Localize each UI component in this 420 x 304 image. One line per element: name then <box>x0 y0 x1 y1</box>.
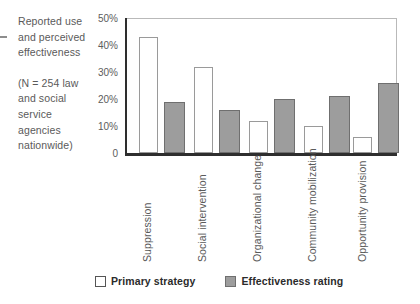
caption-paragraph-2: (N = 254 law and social service agencies… <box>18 76 96 154</box>
bar-effect-4 <box>378 83 399 153</box>
y-axis-line <box>125 18 127 156</box>
bar-effect-0 <box>164 102 185 153</box>
x-axis-category-labels: Suppression Social intervention Organiza… <box>125 160 397 265</box>
margin-rule <box>0 36 7 38</box>
y-tick-20: 20% <box>88 95 118 105</box>
legend-item-primary-strategy: Primary strategy <box>95 275 195 287</box>
legend-swatch-primary-strategy <box>95 276 106 287</box>
bar-primary-0 <box>139 37 158 153</box>
bar-group-community-mobilization <box>304 18 356 153</box>
y-tick-50: 50% <box>88 14 118 24</box>
bar-group-opportunity-provision <box>353 18 405 153</box>
bar-group-suppression <box>139 18 191 153</box>
bar-effect-1 <box>219 110 240 153</box>
y-tick-10: 10% <box>88 122 118 132</box>
bar-primary-1 <box>194 67 213 153</box>
bar-chart-plot-area <box>125 18 397 156</box>
chart-legend: Primary strategy Effectiveness rating <box>95 274 343 288</box>
bar-primary-4 <box>353 137 372 153</box>
x-label-suppression: Suppression <box>141 203 153 262</box>
bar-effect-3 <box>329 96 350 153</box>
y-tick-30: 30% <box>88 68 118 78</box>
y-tick-0: 0 <box>88 149 118 159</box>
x-label-social-intervention: Social intervention <box>196 174 208 262</box>
chart-caption: Reported use and perceived effectiveness… <box>18 14 96 154</box>
legend-label-effectiveness-rating: Effectiveness rating <box>241 275 343 287</box>
x-label-opportunity-provision: Opportunity provision <box>356 161 368 262</box>
legend-swatch-effectiveness-rating <box>225 276 236 287</box>
caption-paragraph-1: Reported use and perceived effectiveness <box>18 14 96 61</box>
y-axis-tick-labels: 50% 40% 30% 20% 10% 0 <box>90 18 122 156</box>
bar-primary-2 <box>249 121 268 153</box>
legend-label-primary-strategy: Primary strategy <box>111 275 195 287</box>
x-label-organizational-change: Organizational change <box>251 155 263 262</box>
bar-group-organizational-change <box>249 18 301 153</box>
bar-group-social-intervention <box>194 18 246 153</box>
y-tick-40: 40% <box>88 41 118 51</box>
legend-item-effectiveness-rating: Effectiveness rating <box>225 275 343 287</box>
x-label-community-mobilization: Community mobilization <box>306 148 318 262</box>
bar-effect-2 <box>274 99 295 153</box>
